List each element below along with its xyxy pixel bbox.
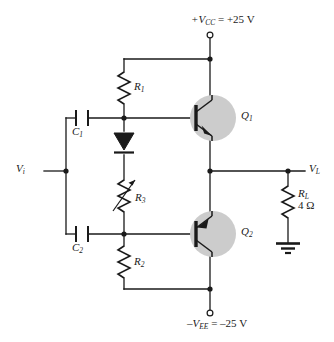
junction-dot-rl (285, 168, 290, 173)
input-port-label: Vi (16, 163, 25, 175)
circuit-diagram: +VCC = +25 V –VEE = –25 V Vi VL R1 R3 R2… (0, 0, 334, 342)
diode-icon (114, 133, 134, 150)
r3-label: R3 (135, 192, 145, 204)
capacitor-c2-icon (76, 226, 88, 242)
vee-terminal-icon (207, 310, 213, 316)
junction-dot-vee (207, 286, 212, 291)
junction-dot-vcc (207, 56, 212, 61)
circuit-schematic-svg (0, 0, 334, 342)
c1-label: C1 (72, 126, 83, 138)
capacitor-c1-icon (76, 110, 88, 126)
vcc-label: +VCC = +25 V (191, 14, 255, 26)
junction-dot-output (207, 168, 212, 173)
output-port-label: VL (309, 163, 320, 175)
resistor-r1-icon (118, 72, 130, 104)
q2-label: Q2 (241, 226, 253, 238)
ground-icon (276, 244, 300, 254)
vee-label: –VEE = –25 V (187, 318, 247, 330)
resistor-rl-icon (282, 186, 294, 218)
wire-group (44, 38, 305, 310)
junction-dot-vi (63, 168, 68, 173)
junction-dot-q2-base (121, 231, 126, 236)
rl-value-label: 4 Ω (298, 200, 314, 212)
junction-dot-group (63, 56, 290, 291)
q1-label: Q1 (241, 110, 253, 122)
junction-dot-q1-base (121, 115, 126, 120)
r2-label: R2 (134, 256, 144, 268)
resistor-r2-icon (118, 246, 130, 278)
variable-arrow-icon (113, 180, 135, 211)
c2-label: C2 (72, 242, 83, 254)
rl-label: RL (298, 188, 309, 200)
r1-label: R1 (134, 81, 144, 93)
vcc-terminal-icon (207, 32, 213, 38)
